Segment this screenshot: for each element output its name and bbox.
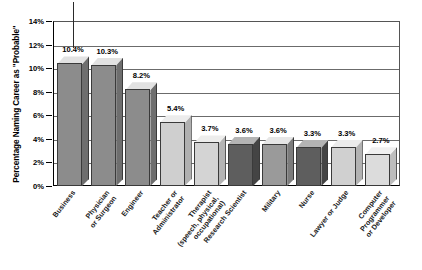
y-tick-mark — [46, 68, 52, 69]
bar — [194, 0, 228, 186]
bar — [160, 0, 194, 186]
y-tick-mark — [46, 162, 52, 163]
x-axis-label-line: Military — [260, 189, 282, 214]
y-tick-mark — [46, 92, 52, 93]
x-axis-label: Physicianor Surgeon — [81, 189, 118, 230]
bar-front-face — [262, 144, 287, 186]
bar-front-face — [331, 147, 356, 186]
bar-front-face — [296, 147, 321, 186]
bar-side-face — [150, 82, 157, 186]
bar-value-label: 5.4% — [154, 104, 198, 113]
y-tick-label: 10% — [18, 64, 44, 73]
x-axis-label-line: Engineer — [120, 189, 146, 219]
x-axis-label: Military — [260, 189, 282, 214]
scan-artifact-line — [73, 2, 74, 48]
x-axis-label: Nurse — [297, 189, 316, 210]
bar-front-face — [91, 65, 116, 186]
bar-value-label: 8.2% — [119, 71, 163, 80]
bar-front-face — [57, 63, 82, 186]
y-tick-label: 4% — [18, 134, 44, 143]
y-tick-mark — [46, 139, 52, 140]
bar — [57, 0, 91, 186]
x-axis-label: Lawyer or Judge — [309, 189, 351, 239]
y-tick-label: 14% — [18, 17, 44, 26]
bar — [365, 0, 399, 186]
x-axis-label: Business — [51, 189, 77, 219]
bar-side-face — [253, 137, 260, 186]
bar — [262, 0, 296, 186]
y-tick-mark — [46, 115, 52, 116]
bar-side-face — [82, 56, 89, 186]
y-tick-mark — [46, 21, 52, 22]
x-axis-label-line: Nurse — [297, 189, 316, 210]
y-axis-ticks: 0%2%4%6%8%10%12%14% — [18, 0, 44, 270]
bar-front-face — [125, 89, 150, 186]
bar — [296, 0, 330, 186]
x-axis-category-labels: BusinessPhysicianor SurgeonEngineerTeach… — [53, 189, 413, 270]
bar-value-label: 10.3% — [85, 47, 129, 56]
bar-side-face — [356, 140, 363, 186]
bar-chart: Percentage Naming Career as "Probable" 0… — [0, 0, 422, 270]
bar-side-face — [287, 137, 294, 186]
x-axis-label-line: Lawyer or Judge — [309, 189, 351, 239]
bar-front-face — [160, 122, 185, 186]
bar-side-face — [321, 140, 328, 186]
bar-front-face — [194, 142, 219, 186]
bar — [331, 0, 365, 186]
bar — [125, 0, 159, 186]
x-axis-label-line: Business — [51, 189, 77, 219]
y-tick-label: 0% — [18, 182, 44, 191]
bar-side-face — [219, 135, 226, 186]
bar — [91, 0, 125, 186]
y-tick-label: 6% — [18, 111, 44, 120]
x-axis-label: ComputerProgrammeror Developer — [351, 189, 398, 240]
y-tick-label: 12% — [18, 40, 44, 49]
bar — [228, 0, 262, 186]
bar-front-face — [228, 144, 253, 186]
bar-value-label: 2.7% — [359, 136, 403, 145]
y-tick-label: 8% — [18, 87, 44, 96]
y-tick-mark — [46, 186, 52, 187]
bar-front-face — [365, 154, 390, 186]
x-axis-label: Engineer — [120, 189, 146, 219]
y-tick-label: 2% — [18, 158, 44, 167]
